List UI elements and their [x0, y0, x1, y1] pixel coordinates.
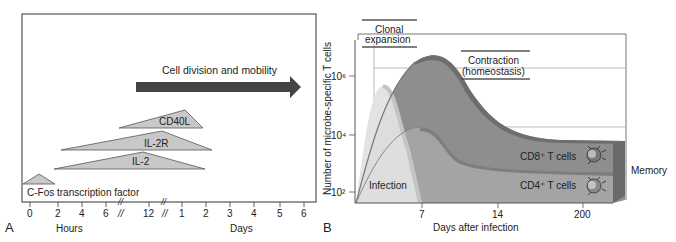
clonal-expansion-line2: expansion — [365, 34, 411, 45]
panel-b-label: B — [323, 220, 332, 235]
tick-a-8: 2 — [203, 208, 209, 219]
tick-a-7: 1 — [179, 208, 185, 219]
tick-a-9: 3 — [227, 208, 233, 219]
x-tick-7: 7 — [419, 209, 425, 220]
days-label: Days — [230, 223, 253, 234]
tick-a-12: 6 — [301, 208, 307, 219]
infection-label: Infection — [369, 180, 407, 191]
tick-a-11: 5 — [277, 208, 283, 219]
panel-a-ticks — [30, 202, 304, 207]
contraction-line1: Contraction — [468, 55, 519, 66]
tick-a-2: 4 — [79, 208, 85, 219]
panel-b: 10⁶ 10⁴ 10² Number of microbe-specific T… — [322, 20, 667, 235]
memory-label: Memory — [631, 165, 667, 176]
hours-label: Hours — [56, 223, 83, 234]
panel-a: Cell division and mobility CD40L IL-2R I… — [5, 14, 316, 235]
tick-a-4: // — [117, 208, 125, 219]
tick-a-5: 12 — [143, 208, 155, 219]
tick-a-0: 0 — [27, 208, 33, 219]
x-tick-14: 14 — [492, 209, 504, 220]
contraction-line2: (homeostasis) — [462, 66, 525, 77]
tick-a-10: 4 — [251, 208, 257, 219]
arrow-label: Cell division and mobility — [162, 64, 278, 76]
cd40l-label: CD40L — [159, 116, 191, 127]
y-tick-1e2: 10² — [331, 187, 346, 198]
il2-label: IL-2 — [132, 156, 150, 167]
panel-a-frame — [22, 14, 316, 202]
tick-a-1: 2 — [55, 208, 61, 219]
y-axis-label: Number of microbe-specific T cells — [322, 42, 333, 195]
x-axis-label: Days after infection — [433, 222, 519, 233]
x-tick-200: 200 — [574, 209, 591, 220]
tick-a-6: // — [161, 208, 169, 219]
y-tick-1e4: 10⁴ — [331, 130, 346, 141]
cd8-label: CD8⁺ T cells — [520, 151, 576, 162]
y-tick-1e6: 10⁶ — [331, 71, 346, 82]
panel-a-label: A — [5, 220, 14, 235]
il2r-label: IL-2R — [144, 138, 168, 149]
cd4-label: CD4⁺ T cells — [520, 180, 576, 191]
tick-a-3: 6 — [103, 208, 109, 219]
